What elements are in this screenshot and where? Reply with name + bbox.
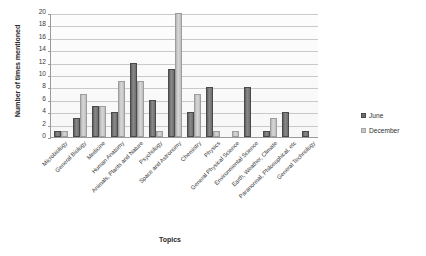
chart-legend: June December	[361, 112, 423, 142]
y-tick-8: 8	[26, 83, 46, 89]
x-tick-label: General Technology	[276, 140, 317, 181]
legend-label-june: June	[369, 112, 383, 119]
bar-december	[270, 118, 277, 137]
bar-group	[146, 14, 165, 137]
bar-june	[263, 131, 270, 137]
bar-december	[213, 131, 220, 137]
bar-group	[165, 14, 184, 137]
bar-june	[168, 69, 175, 137]
y-tick-2: 2	[26, 121, 46, 127]
legend-item-december: December	[361, 127, 423, 134]
bar-june	[92, 106, 99, 137]
bar-group	[185, 14, 204, 137]
plot-area	[50, 14, 318, 138]
bar-june	[130, 63, 137, 137]
bar-group	[108, 14, 127, 137]
bar-group	[204, 14, 223, 137]
y-tick-18: 18	[26, 21, 46, 27]
bar-june	[282, 112, 289, 137]
y-tick-6: 6	[26, 96, 46, 102]
bar-december	[232, 131, 239, 137]
bar-june	[244, 87, 251, 137]
bar-june	[187, 112, 194, 137]
bar-december	[194, 94, 201, 137]
bar-june	[302, 131, 309, 137]
y-axis-title: Number of times mentioned	[13, 11, 25, 131]
bar-june	[111, 112, 118, 137]
y-tickmark-0	[48, 138, 51, 139]
bar-group	[127, 14, 146, 137]
bar-june	[54, 131, 61, 137]
bar-group	[299, 14, 318, 137]
bar-group	[261, 14, 280, 137]
legend-label-december: December	[369, 127, 399, 134]
bar-june	[206, 87, 213, 137]
legend-swatch-june	[361, 113, 366, 118]
bar-december	[118, 81, 125, 137]
y-tick-10: 10	[26, 71, 46, 77]
legend-item-june: June	[361, 112, 423, 119]
y-tick-4: 4	[26, 108, 46, 114]
bar-group	[280, 14, 299, 137]
y-tick-12: 12	[26, 59, 46, 65]
bar-june	[149, 100, 156, 137]
legend-swatch-december	[361, 128, 366, 133]
bar-december	[175, 13, 182, 137]
bar-december	[156, 131, 163, 137]
bar-group	[89, 14, 108, 137]
x-tick-label: Physics	[203, 140, 221, 158]
y-tick-14: 14	[26, 46, 46, 52]
bar-group	[242, 14, 261, 137]
bar-december	[61, 131, 68, 137]
y-tick-0: 0	[26, 133, 46, 139]
bar-group	[51, 14, 70, 137]
bar-group	[70, 14, 89, 137]
bar-december	[99, 106, 106, 137]
bar-chart: Number of times mentioned 20181614121086…	[0, 0, 426, 256]
x-axis-title: Topics	[0, 236, 340, 243]
bar-december	[137, 81, 144, 137]
y-tick-16: 16	[26, 34, 46, 40]
x-axis-tick-labels: MicrobiologyGeneral BiologyMedicineHuman…	[50, 140, 318, 218]
y-tick-20: 20	[26, 9, 46, 15]
bar-june	[73, 118, 80, 137]
bar-group	[223, 14, 242, 137]
y-axis-tick-labels: 20181614121086420	[26, 12, 46, 138]
bar-december	[80, 94, 87, 137]
bar-series-container	[51, 14, 318, 137]
